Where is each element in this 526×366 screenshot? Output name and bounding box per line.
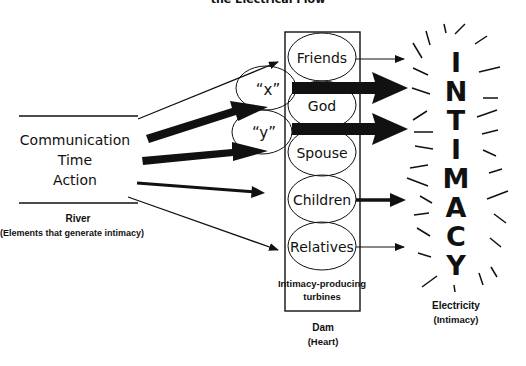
children-label: Children (293, 192, 351, 208)
river-item-time: Time (57, 152, 92, 168)
turbine-children: Children (288, 175, 356, 223)
intimacy-flow-diagram: the Electrical Flow Communication Time A… (0, 0, 526, 366)
intimacy-letter-1: I (451, 47, 461, 78)
arrow-to-x (146, 101, 268, 143)
intimacy-letter-7: C (446, 221, 466, 252)
intermediate-x: “x” (236, 66, 296, 110)
intimacy-letter-5: M (443, 163, 470, 194)
turbine-relatives: Relatives (288, 222, 356, 270)
river-sublabel: (Elements that generate intimacy) (0, 228, 144, 238)
y-label: “y” (252, 124, 276, 142)
river-label: River (65, 213, 90, 224)
title-fragment: the Electrical Flow (211, 0, 326, 6)
turbine-friends: Friends (288, 33, 356, 81)
svg-text:the Electrical Flow: the Electrical Flow (211, 0, 326, 6)
friends-label: Friends (297, 50, 347, 66)
spouse-label: Spouse (296, 145, 347, 161)
arrow-to-children-head (251, 186, 265, 198)
river-item-communication: Communication (20, 132, 130, 148)
intimacy-letter-6: A (446, 192, 467, 223)
intimacy-word: I N T I M A C Y (443, 47, 470, 281)
arrow-to-y (142, 142, 268, 165)
intimacy-letter-8: Y (445, 250, 466, 281)
arrow-children-out-head (390, 193, 406, 207)
electricity-label: Electricity (432, 300, 480, 311)
arrow-to-relatives (128, 197, 278, 250)
intimacy-letter-2: N (445, 76, 468, 107)
turbine-spouse: Spouse (288, 128, 356, 176)
turbine-caption-line1: Intimacy-producing (278, 278, 366, 289)
arrow-y-to-intimacy (292, 113, 408, 145)
river-item-action: Action (53, 172, 97, 188)
arrow-to-children-shaft (137, 183, 256, 192)
x-label: “x” (256, 81, 280, 99)
intermediate-y: “y” (232, 110, 292, 154)
turbine-caption-line2: turbines (303, 291, 340, 302)
river-block: Communication Time Action River (Element… (0, 116, 144, 238)
dam-sublabel: (Heart) (308, 336, 339, 347)
intimacy-letter-3: T (447, 105, 466, 136)
dam-label: Dam (312, 322, 334, 333)
intimacy-letter-4: I (451, 134, 461, 165)
relatives-label: Relatives (290, 239, 354, 255)
god-label: God (308, 98, 336, 114)
dam-box (285, 32, 360, 311)
electricity-sublabel: (Intimacy) (434, 314, 479, 325)
